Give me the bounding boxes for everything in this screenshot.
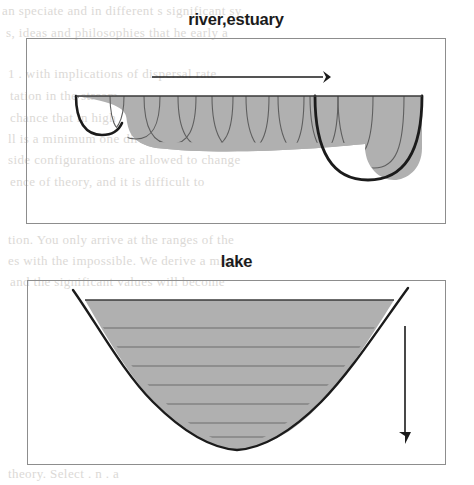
lake-diagram xyxy=(27,280,446,465)
panel-river-estuary: river,estuary xyxy=(26,10,446,224)
river-estuary-diagram xyxy=(26,38,446,224)
flow-direction-arrow xyxy=(152,71,331,83)
panel-lake: lake xyxy=(27,252,446,465)
figure-page: river,estuary xyxy=(0,0,474,485)
panel-title-river-estuary: river,estuary xyxy=(26,10,446,29)
panel-title-lake: lake xyxy=(27,252,446,271)
sinking-direction-arrow xyxy=(399,326,411,444)
